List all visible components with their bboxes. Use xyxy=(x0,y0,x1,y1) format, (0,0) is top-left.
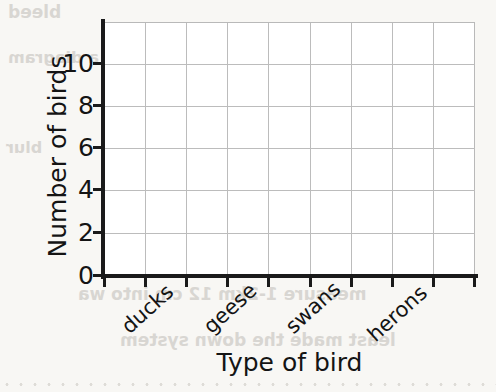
bleed-artifact-row-b: least made the down system xyxy=(120,330,396,350)
x-axis-tick xyxy=(391,274,394,287)
bleed-artifact-dot-row xyxy=(0,382,496,387)
gridline-horizontal xyxy=(104,64,475,65)
x-axis-tick xyxy=(226,274,229,287)
y-axis-tick xyxy=(93,231,105,234)
x-axis-category-label-herons: herons xyxy=(364,282,431,345)
x-axis-tick xyxy=(185,274,188,287)
gridline-vertical xyxy=(145,23,146,277)
y-axis-tick-label: 2 xyxy=(78,220,94,245)
x-axis-category-label-geese: geese xyxy=(200,280,261,338)
x-axis-line xyxy=(101,274,478,278)
x-axis-title: Type of bird xyxy=(104,348,475,377)
gridline-vertical xyxy=(351,23,352,277)
gridline-vertical xyxy=(433,23,434,277)
y-axis-tick xyxy=(93,188,105,191)
x-axis-tick xyxy=(103,274,106,287)
x-axis-category-label-swans: swans xyxy=(282,278,345,337)
y-axis-tick xyxy=(93,62,105,65)
gridline-horizontal xyxy=(104,106,475,107)
gridline-horizontal xyxy=(104,233,475,234)
y-axis-line xyxy=(101,19,105,279)
bleed-artifact-mid-left: blur xyxy=(6,138,42,157)
plot-area xyxy=(104,22,475,276)
bar-chart-figure: bleed blur measure 1-2km 12 cm into wa l… xyxy=(0,0,496,392)
gridline-vertical xyxy=(227,23,228,277)
gridline-vertical xyxy=(186,23,187,277)
bleed-artifact-top-left: bleed xyxy=(8,2,61,22)
gridline-horizontal xyxy=(104,190,475,191)
x-axis-tick xyxy=(473,274,476,287)
y-axis-tick-label: 4 xyxy=(78,177,94,202)
gridline-vertical xyxy=(310,23,311,277)
x-axis-tick xyxy=(432,274,435,287)
x-axis-category-label-ducks: ducks xyxy=(118,281,178,338)
x-axis-tick xyxy=(350,274,353,287)
y-axis-title: Number of birds xyxy=(43,27,72,287)
gridline-vertical xyxy=(268,23,269,277)
y-axis-tick xyxy=(93,104,105,107)
y-axis-tick xyxy=(93,146,105,149)
gridline-horizontal xyxy=(104,148,475,149)
x-axis-tick xyxy=(309,274,312,287)
y-axis-tick-label: 0 xyxy=(78,263,94,288)
x-axis-tick xyxy=(144,274,147,287)
gridline-vertical xyxy=(392,23,393,277)
x-axis-tick xyxy=(267,274,270,287)
y-axis-tick-label: 8 xyxy=(78,93,94,118)
y-axis-tick-label: 6 xyxy=(78,135,94,160)
